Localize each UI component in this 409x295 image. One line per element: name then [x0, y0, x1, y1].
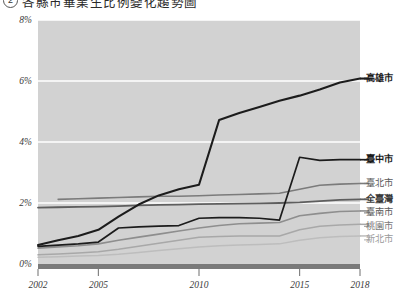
legend-group: 高雄市臺中市臺北市全臺灣臺南市桃園市新北市 — [360, 72, 393, 244]
y-tick-label: 6% — [19, 76, 32, 86]
y-tick-label: 4% — [19, 137, 32, 147]
chart-container: 2 各縣市畢業生比例變化趨勢圖 0%2%4%6%8% 2002200520102… — [0, 0, 409, 295]
x-tick-label: 2015 — [290, 280, 309, 290]
x-axis-labels-group: 20022005201020152018 — [29, 267, 370, 291]
x-tick-label: 2010 — [190, 280, 209, 290]
x-tick-label: 2018 — [351, 280, 370, 290]
y-tick-label: 8% — [19, 15, 32, 25]
line-chart-svg: 0%2%4%6%8% 20022005201020152018 高雄市臺中市臺北… — [0, 0, 409, 295]
legend-label-1[interactable]: 臺中市 — [366, 153, 393, 164]
legend-label-0[interactable]: 高雄市 — [366, 72, 393, 83]
x-tick-label: 2005 — [89, 280, 108, 290]
y-tick-label: 2% — [19, 198, 32, 208]
legend-label-6[interactable]: 新北市 — [366, 233, 393, 244]
legend-label-4[interactable]: 臺南市 — [366, 206, 393, 217]
legend-label-5[interactable]: 桃園市 — [366, 220, 393, 231]
y-tick-label: 0% — [19, 259, 32, 269]
x-tick-label: 2002 — [29, 280, 48, 290]
legend-label-2[interactable]: 臺北市 — [366, 177, 393, 188]
legend-label-3[interactable]: 全臺灣 — [365, 193, 393, 204]
y-axis-labels-group: 0%2%4%6%8% — [19, 15, 32, 269]
